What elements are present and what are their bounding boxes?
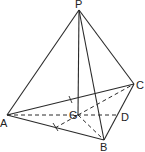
edge-pb xyxy=(79,10,104,140)
edge-pg xyxy=(78,10,79,115)
label-g: G xyxy=(69,109,78,121)
tetrahedron-diagram: P A B C G D xyxy=(0,0,145,152)
label-p: P xyxy=(75,0,82,10)
label-c: C xyxy=(136,79,144,91)
label-b: B xyxy=(100,141,107,152)
label-a: A xyxy=(0,117,8,129)
label-d: D xyxy=(121,111,129,123)
edge-pa xyxy=(7,10,79,115)
edge-pc xyxy=(79,10,134,84)
edge-bc xyxy=(104,84,134,140)
